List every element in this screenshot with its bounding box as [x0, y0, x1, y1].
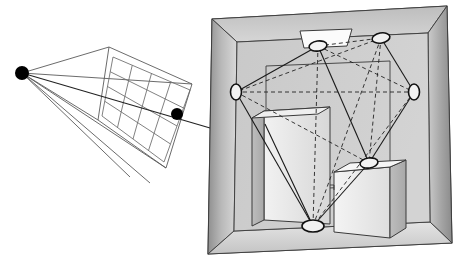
- grid-row-3: [105, 101, 171, 144]
- figure-root: [0, 0, 458, 261]
- room-wall-right: [428, 6, 452, 243]
- tall-block-front: [264, 107, 330, 224]
- sample-pixel-marker: [171, 108, 183, 120]
- node-floor: [302, 220, 324, 232]
- grid-row-2: [108, 87, 178, 127]
- node-wall-right: [409, 84, 420, 100]
- room-scene-group: [208, 6, 452, 254]
- frustum-edge-bottom-right: [22, 73, 166, 168]
- room-wall-left: [208, 19, 237, 254]
- tall-block-side: [252, 111, 264, 226]
- frustum-edge-right: [22, 73, 192, 84]
- ray-tracing-diagram: [0, 0, 458, 261]
- eye-point: [15, 66, 29, 80]
- short-block: [334, 160, 406, 238]
- frustum-edge-extra-2: [22, 73, 150, 183]
- node-wall-left: [231, 84, 242, 100]
- short-block-front: [334, 167, 390, 238]
- short-block-side: [390, 160, 406, 238]
- frustum-edge-bottom-left: [22, 73, 98, 120]
- frustum-edge-top: [22, 47, 109, 73]
- tall-block: [252, 107, 330, 226]
